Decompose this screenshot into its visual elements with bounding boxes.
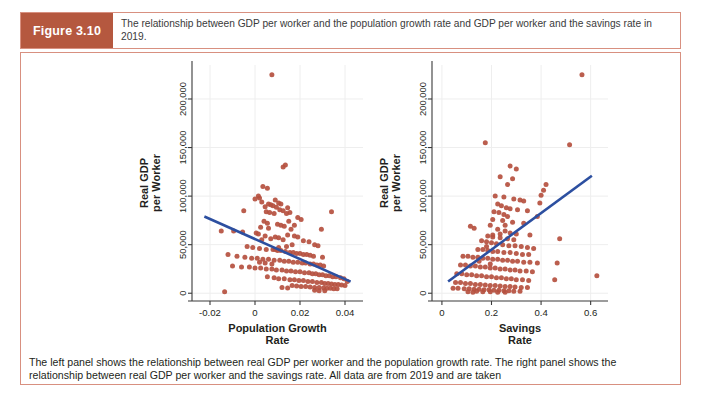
x-axis-title: Savings	[499, 322, 541, 334]
data-point	[485, 233, 490, 238]
data-point	[491, 209, 496, 214]
data-point	[302, 270, 307, 275]
data-point	[456, 286, 461, 291]
data-point	[535, 261, 540, 266]
x-tick-label: -0.02	[199, 307, 221, 318]
data-point	[488, 223, 493, 228]
data-point	[557, 236, 562, 241]
data-point	[498, 174, 503, 179]
data-point	[493, 194, 498, 199]
data-point	[489, 240, 494, 245]
x-tick-label: 0.04	[336, 307, 355, 318]
data-point	[484, 274, 489, 279]
data-point	[508, 250, 513, 255]
data-point	[541, 188, 546, 193]
data-point	[524, 268, 529, 273]
data-point	[282, 259, 287, 264]
data-point	[495, 257, 500, 262]
data-point	[525, 245, 530, 250]
data-point	[509, 276, 514, 281]
data-point	[264, 247, 269, 252]
data-point	[508, 206, 513, 211]
data-point	[504, 276, 509, 281]
y-tick-label: 150,000	[177, 131, 188, 165]
data-point	[490, 232, 495, 237]
data-point	[335, 286, 340, 291]
data-point	[503, 223, 508, 228]
data-point	[308, 284, 313, 289]
x-tick-label: 0.02	[291, 307, 310, 318]
data-point	[257, 246, 262, 251]
data-point	[458, 280, 463, 285]
data-point	[295, 234, 300, 239]
data-point	[269, 262, 274, 267]
data-point	[316, 243, 321, 248]
figure-header: Figure 3.10 The relationship between GDP…	[20, 12, 681, 49]
x-axis-title: Population Growth	[228, 322, 327, 334]
data-point	[267, 210, 272, 215]
data-point	[483, 282, 488, 287]
y-tick-label: 50,000	[417, 230, 428, 259]
data-point	[490, 217, 495, 222]
y-tick-label: 0	[177, 291, 188, 296]
data-point	[291, 260, 296, 265]
x-tick-label: 0	[439, 307, 444, 318]
x-tick-label: 0.2	[485, 307, 498, 318]
data-point	[501, 195, 506, 200]
data-point	[495, 290, 500, 295]
data-point	[268, 236, 273, 241]
chart-panel-savings-rate: 050,000100,000150,000200,00000.20.40.6Sa…	[366, 53, 616, 353]
data-point	[511, 237, 516, 242]
data-point	[594, 273, 599, 278]
data-point	[478, 265, 483, 270]
data-point	[513, 284, 518, 289]
data-point	[475, 247, 480, 252]
data-point	[258, 225, 263, 230]
data-point	[515, 207, 520, 212]
data-point	[250, 245, 255, 250]
data-point	[226, 252, 231, 257]
data-point	[510, 259, 515, 264]
gridlines	[192, 65, 363, 301]
data-point	[474, 273, 479, 278]
data-point	[265, 274, 270, 279]
data-point	[305, 279, 310, 284]
data-point	[494, 275, 499, 280]
data-point	[465, 254, 470, 259]
data-point	[274, 267, 279, 272]
data-point	[470, 290, 475, 295]
data-point	[289, 227, 294, 232]
data-point	[479, 238, 484, 243]
data-point	[317, 288, 322, 293]
data-point	[307, 239, 312, 244]
data-point	[470, 255, 475, 260]
data-point	[469, 272, 474, 277]
data-point	[544, 182, 549, 187]
x-axis-ticks: 00.20.40.6	[439, 301, 597, 318]
data-point	[269, 72, 274, 77]
data-point	[451, 286, 456, 291]
trend-line	[448, 176, 592, 282]
y-axis-ticks: 050,000100,000150,000200,000	[177, 82, 192, 296]
data-point	[579, 72, 584, 77]
y-axis-title: Real GDP	[138, 158, 150, 208]
data-point	[511, 197, 516, 202]
x-axis-ticks: -0.0200.020.04	[199, 301, 355, 318]
axes	[188, 61, 363, 301]
scatter-plot-svg: 050,000100,000150,000200,00000.20.40.6Sa…	[366, 53, 616, 353]
data-point	[503, 229, 508, 234]
data-point	[555, 261, 560, 266]
data-point	[463, 281, 468, 286]
data-point	[310, 279, 315, 284]
data-point	[298, 269, 303, 274]
data-point	[287, 277, 292, 282]
data-point	[495, 227, 500, 232]
data-point	[283, 163, 288, 168]
data-point	[506, 243, 511, 248]
data-point	[483, 140, 488, 145]
data-point	[513, 243, 518, 248]
data-point	[520, 252, 525, 257]
data-point	[525, 208, 530, 213]
data-point	[503, 290, 508, 295]
data-point	[269, 266, 274, 271]
